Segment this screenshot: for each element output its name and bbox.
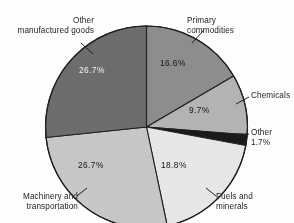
label-primary-commodities: Primary commodities (187, 16, 267, 36)
label-chemicals: Chemicals (251, 91, 294, 101)
slice-other-manufactured-goods[interactable] (46, 26, 147, 137)
value-label-fuels-and-minerals: 18.8% (161, 160, 187, 170)
pie-chart-figure: Primary commodities Other manufactured g… (0, 0, 294, 223)
label-other-manufactured-goods: Other manufactured goods (2, 16, 94, 36)
value-label-chemicals: 9.7% (189, 105, 210, 115)
value-label-machinery-and-transportation: 26.7% (78, 160, 104, 170)
label-other: Other 1.7% (251, 128, 294, 148)
value-label-other-manufactured-goods: 26.7% (79, 65, 105, 75)
value-label-primary-commodities: 16.6% (160, 58, 186, 68)
label-machinery-and-transportation: Machinery and transportation (0, 192, 78, 212)
label-fuels-and-minerals: Fuels and minerals (216, 192, 290, 212)
